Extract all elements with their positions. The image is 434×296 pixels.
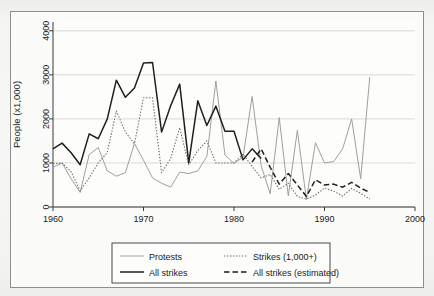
legend-label-all-strikes-estimated: All strikes (estimated) — [253, 268, 339, 278]
y-tick-label-3: 3000 — [41, 65, 51, 85]
y-tick-label-1: 1000 — [41, 153, 51, 173]
y-tick-label-4: 4000 — [41, 21, 51, 41]
figure-page: 01000200030004000People (x1,000)19601970… — [0, 0, 434, 296]
x-tick-label-0: 1960 — [43, 214, 63, 224]
legend-label-strikes-1-000: Strikes (1,000+) — [253, 252, 317, 262]
legend-label-all-strikes: All strikes — [149, 268, 188, 278]
legend-label-protests: Protests — [149, 252, 183, 262]
x-tick-label-2: 1980 — [224, 214, 244, 224]
line-chart: 01000200030004000People (x1,000)19601970… — [0, 0, 434, 296]
y-tick-label-2: 2000 — [41, 109, 51, 129]
x-tick-label-4: 2000 — [405, 214, 425, 224]
y-tick-label-0: 0 — [41, 204, 51, 209]
y-axis-title: People (x1,000) — [11, 81, 22, 148]
x-tick-label-3: 1990 — [314, 214, 334, 224]
x-tick-label-1: 1970 — [133, 214, 153, 224]
